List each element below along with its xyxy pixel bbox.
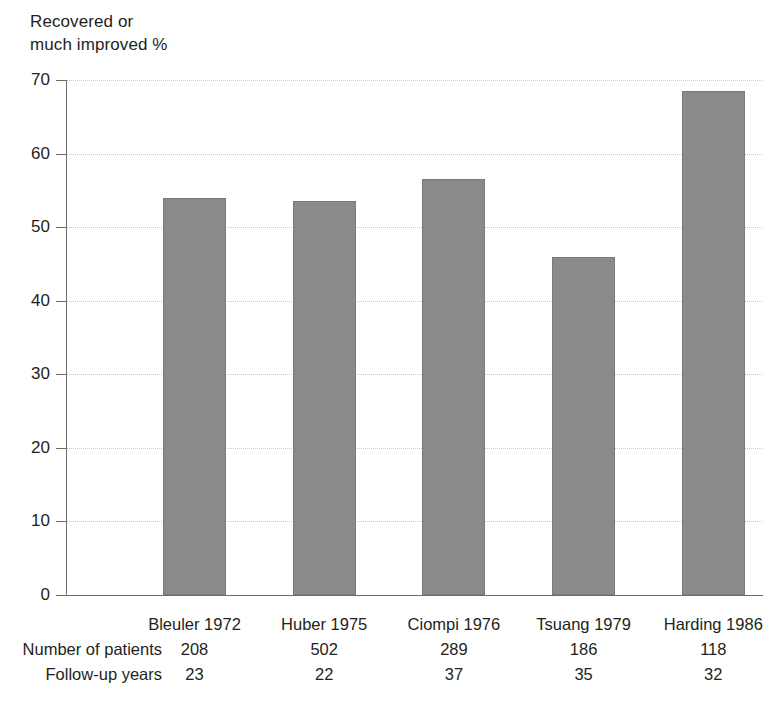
- table-cell: 32: [648, 662, 778, 687]
- y-axis-spine: [66, 80, 67, 596]
- table-cell: Ciompi 1976: [389, 612, 519, 637]
- table-row: Follow-up years2322373532: [0, 662, 778, 687]
- gridline: [67, 154, 762, 155]
- y-axis-tick-label: 50: [8, 218, 50, 235]
- table-cell: 23: [130, 662, 260, 687]
- table-cell: 35: [519, 662, 649, 687]
- bar: [552, 257, 615, 595]
- table-cell: 289: [389, 637, 519, 662]
- table-cell: 118: [648, 637, 778, 662]
- bar: [422, 179, 485, 595]
- y-axis-tick-label: 10: [8, 512, 50, 529]
- category-table: Bleuler 1972Huber 1975Ciompi 1976Tsuang …: [0, 612, 778, 687]
- table-cell: 37: [389, 662, 519, 687]
- table-cell: 208: [130, 637, 260, 662]
- x-axis-baseline: [66, 595, 763, 596]
- table-cell: 22: [259, 662, 389, 687]
- gridline: [67, 80, 762, 81]
- chart-figure: Recovered or much improved % 01020304050…: [0, 0, 778, 715]
- y-axis-tick-label: 30: [8, 365, 50, 382]
- table-row: Number of patients208502289186118: [0, 637, 778, 662]
- y-axis-title: Recovered or much improved %: [30, 10, 168, 56]
- table-cell: Tsuang 1979: [519, 612, 649, 637]
- bar: [163, 198, 226, 595]
- table-cell: Harding 1986: [648, 612, 778, 637]
- table-cell: 502: [259, 637, 389, 662]
- y-axis-tick-label: 60: [8, 145, 50, 162]
- y-axis-tick-label: 40: [8, 292, 50, 309]
- y-axis-tick-label: 0: [8, 586, 50, 603]
- bar: [682, 91, 745, 595]
- y-axis-tick-label: 20: [8, 439, 50, 456]
- table-cell: Huber 1975: [259, 612, 389, 637]
- bar: [293, 201, 356, 595]
- y-axis-tick-label: 70: [8, 71, 50, 88]
- table-row-categories: Bleuler 1972Huber 1975Ciompi 1976Tsuang …: [0, 612, 778, 637]
- table-cell: 186: [519, 637, 649, 662]
- table-cell: Bleuler 1972: [130, 612, 260, 637]
